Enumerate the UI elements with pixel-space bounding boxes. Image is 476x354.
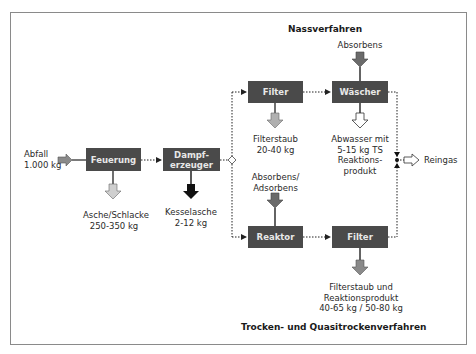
label-filterstaub2-line1: Filterstaub und [318, 282, 404, 293]
label-filterstaub-line2: 20-40 kg [248, 145, 303, 156]
title-trockenverfahren: Trocken- und Quasitrockenverfahren [241, 322, 426, 332]
label-abwasser-line3: Reaktions- [328, 155, 392, 166]
label-abwasser-line4: produkt [328, 166, 392, 177]
box-reaktor-label: Reaktor [257, 232, 295, 242]
label-absorbens-adsorbens: Absorbens/ Adsorbens [248, 172, 303, 193]
label-filterstaub2-line3: 40-65 kg / 50-80 kg [318, 303, 404, 314]
box-dampferzeuger-label-1: Dampf- [174, 150, 209, 160]
label-absorbens-adsorbens-line2: Adsorbens [248, 183, 303, 194]
label-kesselasche-line1: Kesselasche [163, 207, 219, 218]
label-abwasser-line2: 5-15 kg TS [328, 145, 392, 156]
label-abfall-line2: 1.000 kg [24, 160, 61, 171]
label-abfall-line1: Abfall [24, 149, 61, 160]
junction-diamond-icon [228, 156, 236, 164]
label-reingas: Reingas [424, 155, 458, 166]
label-abfall: Abfall 1.000 kg [24, 149, 61, 170]
label-abwasser-line1: Abwasser mit [328, 134, 392, 145]
flow-connectors [0, 0, 476, 354]
box-feuerung: Feuerung [86, 148, 141, 171]
label-absorbens-top: Absorbens [330, 40, 390, 51]
label-kesselasche-line2: 2-12 kg [163, 218, 219, 229]
label-filterstaub-line1: Filterstaub [248, 134, 303, 145]
box-filter-bottom-label: Filter [347, 232, 373, 242]
label-absorbens-adsorbens-line1: Absorbens/ [248, 172, 303, 183]
box-dampferzeuger: Dampf- erzeuger [163, 148, 220, 171]
title-nassverfahren: Nassverfahren [288, 24, 362, 34]
box-filter-bottom: Filter [332, 226, 388, 248]
box-filter-top: Filter [248, 81, 303, 103]
abfall-input-arrow-icon [58, 154, 86, 166]
label-asche: Asche/Schlacke 250-350 kg [83, 210, 145, 231]
label-abwasser: Abwasser mit 5-15 kg TS Reaktions- produ… [328, 134, 392, 176]
box-reaktor: Reaktor [248, 226, 303, 248]
reingas-arrow-icon [404, 154, 419, 166]
box-waescher-label: Wäscher [340, 87, 381, 97]
box-dampferzeuger-label-2: erzeuger [170, 160, 213, 170]
label-filterstaub-reaktionsprodukt: Filterstaub und Reaktionsprodukt 40-65 k… [318, 282, 404, 314]
label-kesselasche: Kesselasche 2-12 kg [163, 207, 219, 228]
label-filterstaub: Filterstaub 20-40 kg [248, 134, 303, 155]
box-filter-top-label: Filter [263, 87, 289, 97]
label-filterstaub2-line2: Reaktionsprodukt [318, 293, 404, 304]
box-waescher: Wäscher [332, 81, 388, 103]
label-asche-line1: Asche/Schlacke [83, 210, 145, 221]
box-feuerung-label: Feuerung [91, 155, 136, 165]
label-asche-line2: 250-350 kg [83, 221, 145, 232]
